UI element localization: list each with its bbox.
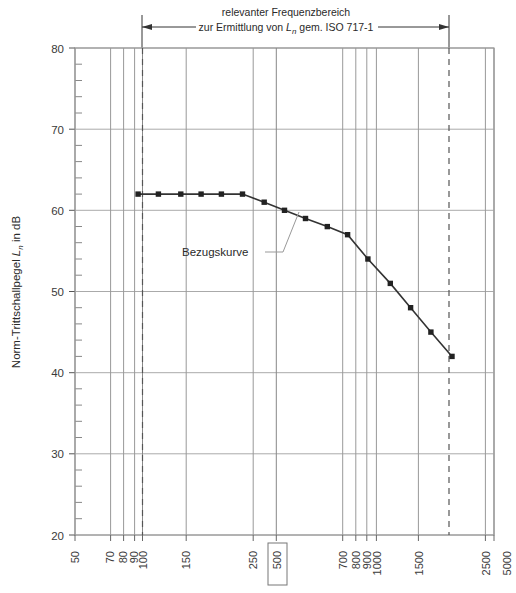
data-point bbox=[178, 191, 183, 196]
annotation-line2-post: gem. ISO 717-1 bbox=[296, 21, 373, 33]
data-point bbox=[449, 354, 454, 359]
data-point bbox=[240, 191, 245, 196]
data-point bbox=[135, 191, 140, 196]
data-point bbox=[262, 200, 267, 205]
data-point bbox=[345, 232, 350, 237]
y-tick-label-60: 60 bbox=[51, 205, 64, 217]
data-point bbox=[156, 191, 161, 196]
y-tick-label-40: 40 bbox=[51, 367, 64, 379]
x-tick-label-100: 100 bbox=[137, 551, 149, 569]
data-point bbox=[219, 191, 224, 196]
chart-background bbox=[0, 0, 516, 593]
x-tick-label-1000: 1000 bbox=[371, 551, 383, 575]
x-tick-label-250: 250 bbox=[247, 551, 259, 569]
reference-curve-chart: relevanter Frequenzbereich zur Ermittlun… bbox=[0, 0, 516, 593]
data-point bbox=[198, 191, 203, 196]
chart-container: relevanter Frequenzbereich zur Ermittlun… bbox=[0, 0, 516, 593]
data-point bbox=[408, 305, 413, 310]
data-point bbox=[428, 329, 433, 334]
y-tick-label-50: 50 bbox=[51, 286, 64, 298]
x-tick-label-1500: 1500 bbox=[413, 551, 425, 575]
data-point bbox=[388, 281, 393, 286]
data-point bbox=[303, 216, 308, 221]
data-point bbox=[365, 256, 370, 261]
x-tick-label-700: 700 bbox=[337, 551, 349, 569]
x-tick-label-5000: 5000 bbox=[501, 551, 513, 575]
curve-label-text: Bezugskurve bbox=[182, 246, 248, 258]
y-tick-label-20: 20 bbox=[51, 530, 64, 542]
data-point bbox=[325, 224, 330, 229]
y-axis-title-pre: Norm-Trittschallpegel bbox=[10, 256, 22, 368]
y-tick-label-30: 30 bbox=[51, 448, 64, 460]
data-point bbox=[282, 208, 287, 213]
x-tick-label-70: 70 bbox=[104, 551, 116, 563]
annotation-line-1: relevanter Frequenzbereich bbox=[222, 6, 351, 18]
x-tick-label-500: 500 bbox=[271, 551, 283, 569]
y-tick-label-80: 80 bbox=[51, 43, 64, 55]
x-tick-label-150: 150 bbox=[180, 551, 192, 569]
annotation-line2-pre: zur Ermittlung von bbox=[199, 21, 287, 33]
y-tick-label-70: 70 bbox=[51, 124, 64, 136]
x-tick-label-2500: 2500 bbox=[480, 551, 492, 575]
y-axis-title-post: in dB bbox=[10, 216, 22, 246]
x-tick-label-50: 50 bbox=[69, 551, 81, 563]
